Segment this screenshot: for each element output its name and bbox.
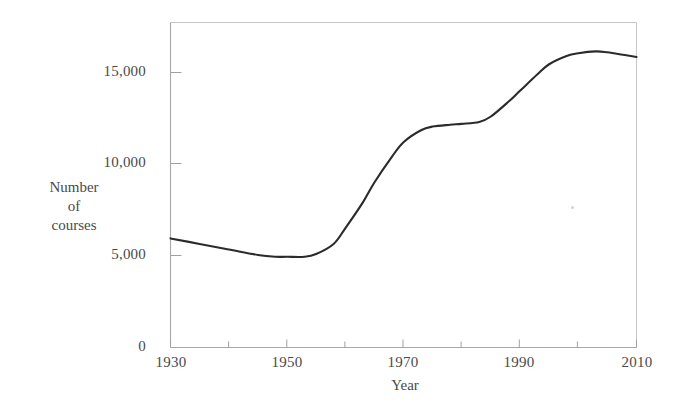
x-tick-label-1950: 1950 [257,354,317,371]
y-axis-title-line-3: courses [18,216,130,235]
x-tick-label-1990: 1990 [489,354,549,371]
x-tick-label-2010: 2010 [607,354,667,371]
x-tick-label-1930: 1930 [141,354,201,371]
plot-frame [171,23,637,348]
x-axis-title: Year [335,377,475,394]
y-axis-ticks [171,73,182,256]
scan-speck [571,206,574,209]
y-tick-label-5000: 5,000 [58,246,146,263]
y-axis-title-line-1: Number [18,178,130,197]
y-tick-label-0: 0 [58,338,146,355]
y-tick-label-10000: 10,000 [58,154,146,171]
chart-figure: 15,000 10,000 5,000 0 1930 1950 1970 199… [0,0,682,420]
x-axis-ticks [171,340,637,348]
y-axis-title-line-2: of [18,197,130,216]
x-tick-label-1970: 1970 [373,354,433,371]
data-series-line [171,51,637,257]
y-tick-label-15000: 15,000 [58,63,146,80]
y-axis-title: Number of courses [18,178,130,235]
